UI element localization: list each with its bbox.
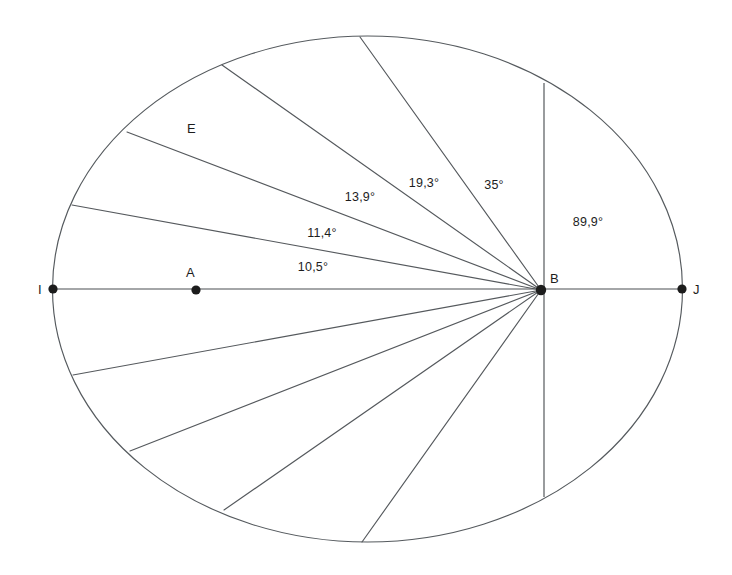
ray-up-1 bbox=[72, 205, 541, 290]
point-dot-b bbox=[536, 285, 546, 295]
angle-10-5-label: 10,5° bbox=[298, 260, 328, 274]
angle-labels-group: 10,5°11,4°13,9°19,3°35°89,9° bbox=[298, 176, 603, 274]
ray-down-2 bbox=[130, 290, 541, 451]
ray-down-4 bbox=[362, 290, 541, 542]
point-label-j: J bbox=[693, 282, 700, 297]
ellipse-sector-figure: IABJE 10,5°11,4°13,9°19,3°35°89,9° bbox=[0, 0, 732, 575]
point-label-b: B bbox=[550, 271, 559, 286]
ray-down-3 bbox=[224, 290, 541, 510]
angle-11-4-label: 11,4° bbox=[307, 226, 336, 240]
point-label-a: A bbox=[186, 265, 195, 280]
ray-up-4 bbox=[360, 37, 541, 290]
point-labels-group: IABJE bbox=[38, 121, 700, 297]
vertex-dots-group bbox=[48, 284, 686, 295]
point-dot-j bbox=[677, 284, 686, 293]
point-dot-a bbox=[191, 285, 200, 294]
ray-down-1 bbox=[73, 290, 541, 375]
point-dot-i bbox=[48, 284, 57, 293]
angle-89-9-label: 89,9° bbox=[573, 215, 603, 229]
diagram-canvas: IABJE 10,5°11,4°13,9°19,3°35°89,9° bbox=[0, 0, 732, 575]
point-label-e: E bbox=[187, 121, 196, 136]
angle-35-label: 35° bbox=[484, 178, 504, 192]
angle-19-3-label: 19,3° bbox=[409, 176, 439, 190]
point-label-i: I bbox=[38, 282, 42, 297]
angle-13-9-label: 13,9° bbox=[345, 190, 375, 204]
